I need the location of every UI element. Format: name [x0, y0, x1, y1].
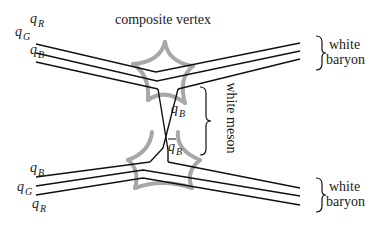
upper-quark-label-g: qG: [15, 24, 30, 42]
upper-baryon-label-line1: white: [329, 37, 360, 52]
upper-quark-label-r: qR: [30, 11, 44, 29]
composite-vertex-diagram: composite vertex qR qG qB qB qG qR qB qB…: [0, 0, 385, 229]
lower-vertex-star-icon: [128, 132, 200, 188]
lower-quark-label-r: qR: [32, 196, 46, 214]
lower-baryon-label-line2: baryon: [326, 194, 365, 209]
brace-icons: [200, 36, 326, 212]
lower-baryon-brace-icon: [316, 178, 326, 212]
lower-quark-label-b: qB: [30, 160, 44, 178]
composite-vertex-title: composite vertex: [115, 12, 211, 27]
lower-quark-label-g: qG: [17, 179, 32, 197]
meson-brace-icon: [200, 87, 211, 155]
upper-baryon-label-line2: baryon: [326, 52, 365, 67]
lower-baryon-label-line1: white: [329, 179, 360, 194]
upper-vertex-star-icon: [133, 42, 193, 103]
white-meson-label: white meson: [224, 82, 239, 153]
upper-baryon-brace-icon: [316, 36, 326, 70]
